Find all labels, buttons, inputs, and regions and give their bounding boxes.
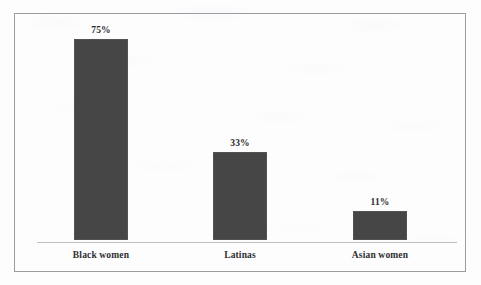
category-label: Black women	[73, 250, 129, 260]
chart-frame: 75% Black women 33% Latinas 11% Asian wo…	[14, 13, 466, 272]
category-label: Asian women	[352, 250, 408, 260]
bar-group: 11% Asian women	[353, 211, 407, 241]
bar-group: 33% Latinas	[213, 152, 267, 240]
category-axis-line	[37, 242, 457, 243]
bar-rect	[353, 211, 407, 241]
bar-rect	[74, 39, 128, 240]
bar-group: 75% Black women	[74, 39, 128, 240]
plot-area: 75% Black women 33% Latinas 11% Asian wo…	[15, 14, 465, 271]
bar-value-label: 75%	[91, 25, 110, 35]
bar-value-label: 11%	[371, 197, 390, 207]
bar-rect	[213, 152, 267, 240]
category-label: Latinas	[224, 250, 256, 260]
bar-value-label: 33%	[230, 138, 249, 148]
